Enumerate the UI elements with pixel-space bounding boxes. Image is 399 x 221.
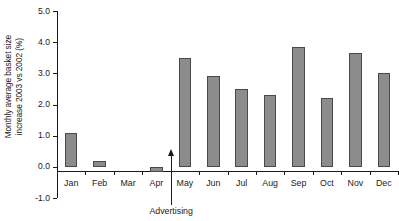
y-tick: 1.0: [53, 136, 57, 137]
x-axis-label: Dec: [376, 178, 392, 188]
x-axis-label: Sep: [291, 178, 307, 188]
x-axis-label: Jul: [236, 178, 247, 188]
bar: [150, 167, 163, 172]
y-axis-title-line-2: increase 2003 vs 2002 (%): [14, 11, 25, 163]
x-tick: [313, 171, 314, 175]
y-tick: 4.0: [53, 42, 57, 43]
x-axis-label: Apr: [150, 178, 164, 188]
bar: [321, 98, 334, 167]
cut-off-caption: [4, 220, 334, 221]
bar-chart-figure: Monthly average basket size increase 200…: [0, 0, 399, 221]
x-tick: [57, 171, 58, 175]
x-axis-label: Mar: [120, 178, 135, 188]
bar: [235, 89, 248, 167]
bar: [349, 53, 362, 167]
x-tick: [341, 171, 342, 175]
y-tick: 5.0: [53, 11, 57, 12]
y-tick: 0.0: [53, 167, 57, 168]
annotation-label: Advertising: [149, 206, 193, 216]
x-tick: [114, 171, 115, 175]
y-tick-label: 0.0: [38, 161, 50, 171]
x-tick: [85, 171, 86, 175]
y-tick-label: 2.0: [38, 99, 50, 109]
bar: [207, 76, 220, 166]
y-axis-title: Monthly average basket size increase 200…: [0, 0, 28, 180]
bar: [93, 161, 106, 167]
x-tick: [199, 171, 200, 175]
bar: [292, 47, 305, 167]
y-axis-line: [57, 11, 58, 198]
x-axis-label: Oct: [320, 178, 334, 188]
y-tick-label: 1.0: [38, 130, 50, 140]
x-tick: [142, 171, 143, 175]
y-tick: 3.0: [53, 73, 57, 74]
y-tick-label: -1.0: [35, 193, 50, 203]
x-tick: [256, 171, 257, 175]
annotation-arrow-head: [168, 149, 174, 156]
x-axis-label: Aug: [262, 178, 278, 188]
x-axis-label: Jun: [206, 178, 220, 188]
x-tick: [370, 171, 371, 175]
plot-area: 5.04.03.02.01.00.0-1.0 JanFebMarAprMayJu…: [57, 11, 398, 198]
y-axis-title-line-1: Monthly average basket size: [3, 35, 13, 138]
x-axis-label: Nov: [348, 178, 364, 188]
y-tick-label: 3.0: [38, 68, 50, 78]
bar: [378, 73, 391, 167]
x-axis-label: Feb: [92, 178, 107, 188]
x-axis-label: May: [177, 178, 194, 188]
y-tick: -1.0: [53, 198, 57, 199]
x-tick: [284, 171, 285, 175]
bar: [65, 133, 78, 167]
y-tick-label: 5.0: [38, 6, 50, 16]
x-axis-label: Jan: [64, 178, 78, 188]
x-tick: [228, 171, 229, 175]
annotation-arrow-line: [171, 156, 172, 205]
y-tick-label: 4.0: [38, 37, 50, 47]
bar: [264, 95, 277, 167]
y-tick: 2.0: [53, 105, 57, 106]
bar: [179, 58, 192, 167]
